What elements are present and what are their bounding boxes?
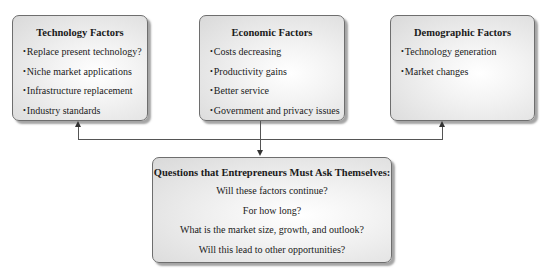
questions-title: Questions that Entrepreneurs Must Ask Th… bbox=[153, 167, 391, 178]
list-item: Infrastructure replacement bbox=[23, 82, 147, 102]
list-item: Better service bbox=[210, 82, 344, 102]
arrow-up-icon bbox=[75, 121, 81, 127]
technology-factors-list: Replace present technology? Niche market… bbox=[13, 43, 147, 121]
demographic-factors-title: Demographic Factors bbox=[391, 27, 534, 38]
list-item: Costs decreasing bbox=[210, 43, 344, 63]
connector-demo-vertical bbox=[442, 126, 443, 140]
list-item: Productivity gains bbox=[210, 63, 344, 83]
list-item: Market changes bbox=[401, 63, 534, 83]
question-item: For how long? bbox=[153, 201, 391, 221]
question-item: What is the market size, growth, and out… bbox=[153, 220, 391, 240]
list-item: Industry standards bbox=[23, 102, 147, 122]
economic-factors-title: Economic Factors bbox=[200, 27, 344, 38]
arrow-down-icon bbox=[257, 150, 263, 156]
demographic-factors-list: Technology generation Market changes bbox=[391, 43, 534, 82]
question-item: Will this lead to other opportunities? bbox=[153, 240, 391, 260]
technology-factors-title: Technology Factors bbox=[13, 27, 147, 38]
connector-tech-vertical bbox=[78, 126, 79, 140]
question-item: Will these factors continue? bbox=[153, 181, 391, 201]
list-item: Government and privacy issues bbox=[210, 102, 344, 122]
economic-factors-list: Costs decreasing Productivity gains Bett… bbox=[200, 43, 344, 121]
demographic-factors-box: Demographic Factors Technology generatio… bbox=[390, 15, 535, 121]
list-item: Replace present technology? bbox=[23, 43, 147, 63]
list-item: Niche market applications bbox=[23, 63, 147, 83]
technology-factors-box: Technology Factors Replace present techn… bbox=[12, 15, 148, 121]
connector-econ-vertical bbox=[260, 121, 261, 151]
entrepreneur-questions-box: Questions that Entrepreneurs Must Ask Th… bbox=[152, 157, 392, 263]
list-item: Technology generation bbox=[401, 43, 534, 63]
economic-factors-box: Economic Factors Costs decreasing Produc… bbox=[199, 15, 345, 121]
arrow-up-icon bbox=[439, 121, 445, 127]
